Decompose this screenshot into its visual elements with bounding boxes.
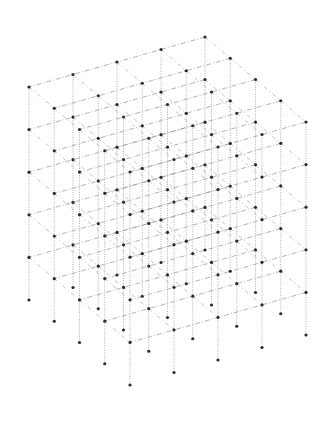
lattice-node bbox=[103, 320, 106, 323]
lattice-node bbox=[185, 69, 188, 72]
lattice-node bbox=[147, 222, 150, 225]
lattice-node bbox=[304, 206, 307, 209]
lattice-node bbox=[128, 213, 131, 216]
lattice-node bbox=[159, 218, 162, 221]
lattice-node bbox=[166, 273, 169, 276]
lattice-node bbox=[172, 371, 175, 374]
lattice-node bbox=[97, 222, 100, 225]
lattice-node bbox=[71, 243, 74, 246]
lattice-node bbox=[141, 252, 144, 255]
lattice-node bbox=[122, 201, 125, 204]
lattice-node bbox=[235, 154, 238, 157]
lattice-node bbox=[279, 184, 282, 187]
lattice-node bbox=[185, 112, 188, 115]
lattice-node bbox=[147, 137, 150, 140]
lattice-node bbox=[235, 197, 238, 200]
lattice-node bbox=[304, 120, 307, 123]
lattice-node bbox=[147, 307, 150, 310]
lattice-node bbox=[115, 146, 118, 149]
lattice-node bbox=[147, 350, 150, 353]
lattice-diagram bbox=[0, 0, 331, 431]
lattice-node bbox=[97, 265, 100, 268]
lattice-node bbox=[191, 124, 194, 127]
lattice-node bbox=[260, 303, 263, 306]
lattice-node bbox=[71, 201, 74, 204]
lattice-node bbox=[27, 85, 30, 88]
lattice-node bbox=[122, 158, 125, 161]
lattice-node bbox=[53, 149, 56, 152]
lattice-node bbox=[203, 206, 206, 209]
lattice-node bbox=[235, 325, 238, 328]
lattice-node bbox=[191, 337, 194, 340]
lattice-node bbox=[166, 103, 169, 106]
lattice-node bbox=[166, 188, 169, 191]
lattice-node bbox=[53, 277, 56, 280]
lattice-node bbox=[210, 303, 213, 306]
lattice-node bbox=[78, 341, 81, 344]
lattice-node bbox=[97, 307, 100, 310]
lattice-node bbox=[304, 291, 307, 294]
lattice-node bbox=[71, 116, 74, 119]
lattice-node bbox=[128, 298, 131, 301]
lattice-node bbox=[172, 201, 175, 204]
lattice-node bbox=[185, 240, 188, 243]
lattice-node bbox=[115, 273, 118, 276]
lattice-node bbox=[216, 316, 219, 319]
lattice-node bbox=[78, 128, 81, 131]
lattice-node bbox=[191, 167, 194, 170]
lattice-node bbox=[115, 60, 118, 63]
lattice-node bbox=[103, 277, 106, 280]
lattice-node bbox=[210, 218, 213, 221]
lattice-node bbox=[97, 137, 100, 140]
lattice-node bbox=[141, 295, 144, 298]
lattice-node bbox=[185, 282, 188, 285]
lattice-node bbox=[229, 227, 232, 230]
lattice-node bbox=[122, 328, 125, 331]
lattice-node bbox=[78, 213, 81, 216]
lattice-node bbox=[279, 99, 282, 102]
lattice-node bbox=[172, 328, 175, 331]
vertical-edges bbox=[29, 37, 306, 385]
lattice-node bbox=[166, 146, 169, 149]
lattice-node bbox=[254, 121, 257, 124]
lattice-node bbox=[203, 163, 206, 166]
lattice-node bbox=[216, 188, 219, 191]
lattice-node bbox=[279, 270, 282, 273]
lattice-node bbox=[122, 115, 125, 118]
lattice-node bbox=[260, 261, 263, 264]
lattice-node bbox=[27, 171, 30, 174]
lattice-node bbox=[166, 231, 169, 234]
lattice-node bbox=[128, 170, 131, 173]
lattice-node bbox=[78, 298, 81, 301]
lattice-node bbox=[78, 171, 81, 174]
lattice-node bbox=[103, 149, 106, 152]
lattice-node bbox=[216, 273, 219, 276]
lattice-node bbox=[159, 176, 162, 179]
lattice-node bbox=[128, 383, 131, 386]
lattice-node bbox=[260, 133, 263, 136]
lattice-node bbox=[53, 234, 56, 237]
lattice-node bbox=[128, 256, 131, 259]
lattice-node bbox=[115, 188, 118, 191]
lattice-node bbox=[27, 298, 30, 301]
lattice-node bbox=[115, 103, 118, 106]
lattice-node bbox=[172, 158, 175, 161]
lattice-node bbox=[103, 192, 106, 195]
lattice-node bbox=[122, 286, 125, 289]
lattice-node bbox=[254, 248, 257, 251]
lattice-node bbox=[53, 107, 56, 110]
lattice-node bbox=[260, 346, 263, 349]
lattice-node bbox=[203, 121, 206, 124]
lattice-node bbox=[159, 48, 162, 51]
lattice-node bbox=[128, 341, 131, 344]
lattice-node bbox=[260, 176, 263, 179]
lattice-node bbox=[304, 333, 307, 336]
lattice-node bbox=[235, 282, 238, 285]
lattice-node bbox=[185, 197, 188, 200]
lattice-node bbox=[254, 78, 257, 81]
lattice-node bbox=[78, 256, 81, 259]
lattice-node bbox=[141, 209, 144, 212]
lattice-node bbox=[115, 231, 118, 234]
lattice-node bbox=[203, 248, 206, 251]
lattice-node bbox=[304, 163, 307, 166]
